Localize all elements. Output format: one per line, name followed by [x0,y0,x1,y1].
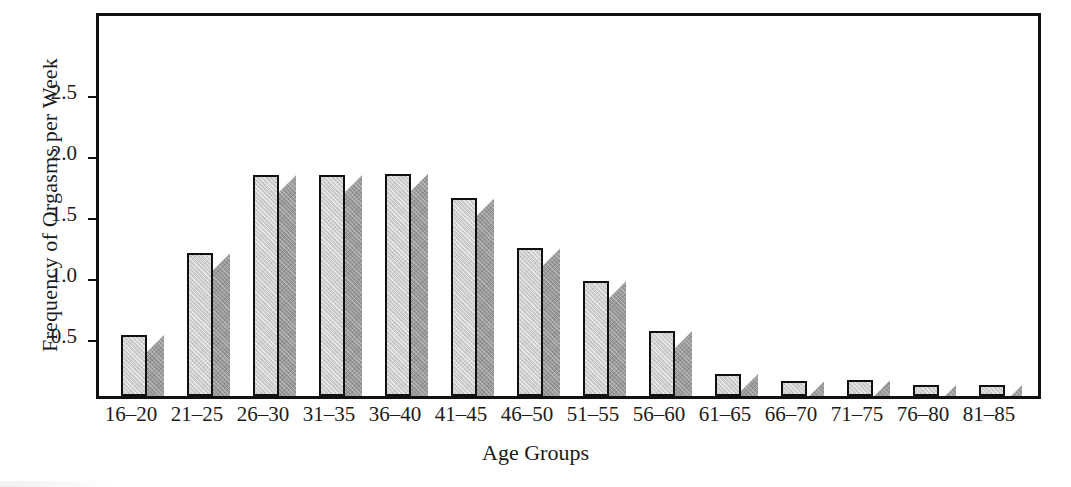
bar [781,16,824,396]
bar-side-face [1005,385,1022,396]
bar [979,16,1022,396]
bar [847,16,890,396]
bar-side-face [345,175,362,396]
bar-side-face [939,385,956,396]
x-axis-title: Age Groups [0,440,1071,466]
bar-front-face [253,175,279,396]
bar-side-face [477,198,494,396]
bar-side-face [675,331,692,396]
y-tick-label: 2.5 [17,82,77,103]
bar [451,16,494,396]
y-tick-mark [88,218,99,220]
bar-front-face [847,380,873,396]
bar-front-face [187,253,213,396]
bar [583,16,626,396]
bar-front-face [649,331,675,396]
bar [121,16,164,396]
bar-side-face [411,174,428,396]
bar [649,16,692,396]
chart-figure: Frequency of Orgasms per Week 2.52.01.51… [0,0,1071,487]
bar-front-face [583,281,609,396]
bar-front-face [451,198,477,396]
bar-side-face [213,253,230,396]
bar-front-face [715,374,741,396]
scan-artifact [0,481,120,487]
bar [319,16,362,396]
bar [187,16,230,396]
bar-front-face [979,385,1005,396]
bar-front-face [121,335,147,396]
bar-side-face [543,248,560,396]
y-tick-label: 1.0 [17,265,77,286]
y-tick-mark [88,157,99,159]
y-tick-label: 1.5 [17,204,77,225]
bar-front-face [385,174,411,396]
bar [253,16,296,396]
x-tick-label: 81–85 [944,404,1034,425]
bar-side-face [807,381,824,396]
bar-side-face [873,380,890,396]
bar-side-face [741,374,758,396]
bar-front-face [319,175,345,396]
bar [385,16,428,396]
bar [517,16,560,396]
y-tick-mark [88,279,99,281]
y-tick-label: 0.5 [17,326,77,347]
bar [715,16,758,396]
y-tick-mark [88,340,99,342]
bar-side-face [609,281,626,396]
bar-front-face [913,385,939,396]
bar-front-face [517,248,543,396]
bar-front-face [781,381,807,396]
bar [913,16,956,396]
bar-side-face [279,175,296,396]
y-tick-label: 2.0 [17,143,77,164]
bar-side-face [147,335,164,396]
plot-area [96,13,1041,399]
y-tick-mark [88,96,99,98]
